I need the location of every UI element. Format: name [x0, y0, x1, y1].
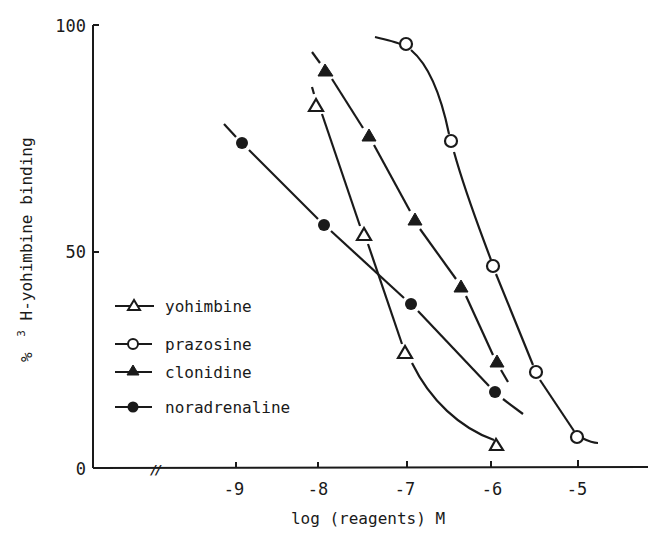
data-point-filled-triangle: [318, 64, 333, 76]
dose-response-chart: 100 50 0 // -9 -8 -7 -6 -5 log (reagents…: [0, 0, 666, 534]
x-tick-label: -5: [567, 479, 587, 499]
legend-item-prazosine: prazosine: [115, 335, 252, 354]
series-yohimbine: [309, 87, 503, 450]
data-point-open-circle: [487, 260, 499, 272]
y-axis-title-superscript: 3: [15, 330, 28, 337]
axis-break-mark: //: [149, 462, 162, 477]
data-point-open-circle: [571, 431, 583, 443]
data-point-filled-circle: [236, 137, 248, 149]
data-point-open-circle: [530, 366, 542, 378]
x-tick-label: -6: [482, 479, 502, 499]
y-tick-label-0: 0: [76, 459, 86, 479]
data-point-open-circle: [445, 135, 457, 147]
legend-open-circle-icon: [128, 339, 138, 349]
data-point-filled-circle: [405, 298, 417, 310]
y-axis-title-rest: H-yohimbine binding: [17, 137, 36, 320]
svg-text:% 3 H-yohimbine bi: % 3 H-yohimbine binding: [10, 137, 36, 362]
data-point-filled-circle: [489, 386, 501, 398]
data-point-open-circle: [400, 38, 412, 50]
series-clonidine: [312, 52, 508, 382]
data-point-filled-circle: [318, 219, 330, 231]
x-tick-label: -9: [224, 479, 244, 499]
data-point-open-triangle: [490, 439, 503, 450]
y-axis-title: % 3 H-yohimbine binding: [10, 137, 36, 362]
y-axis-title-prefix: %: [17, 352, 36, 362]
legend-label: clonidine: [165, 363, 252, 382]
x-tick-label: -8: [308, 479, 328, 499]
legend-label: noradrenaline: [165, 398, 290, 417]
series-noradrenaline: [224, 124, 523, 414]
legend-item-noradrenaline: noradrenaline: [115, 398, 290, 417]
y-tick-label-100: 100: [55, 16, 86, 36]
data-point-open-triangle: [309, 99, 323, 111]
legend-filled-triangle-icon: [127, 365, 139, 375]
data-point-open-triangle: [357, 228, 371, 240]
legend-label: yohimbine: [165, 297, 252, 316]
data-point-filled-triangle: [454, 280, 468, 292]
data-point-filled-triangle: [362, 129, 376, 141]
data-point-filled-triangle: [490, 355, 504, 367]
x-tick-label: -7: [395, 479, 415, 499]
x-axis: [93, 467, 648, 468]
legend-item-yohimbine: yohimbine: [115, 297, 252, 316]
legend: yohimbine prazosine clonidine noradrenal…: [115, 297, 290, 417]
data-point-filled-triangle: [408, 213, 422, 225]
data-point-open-triangle: [398, 346, 412, 358]
y-tick-label-50: 50: [66, 242, 86, 262]
legend-item-clonidine: clonidine: [115, 363, 252, 382]
legend-filled-circle-icon: [128, 402, 139, 413]
x-axis-title: log (reagents) M: [291, 509, 445, 528]
legend-label: prazosine: [165, 335, 252, 354]
